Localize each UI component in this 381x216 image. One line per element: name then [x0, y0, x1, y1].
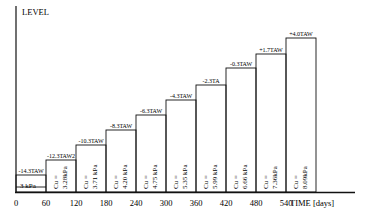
- load-stage: -2.3TACu =5.99 kPa: [196, 78, 226, 192]
- cu-label-line1: Cu =: [142, 175, 150, 189]
- x-tick-label: 540: [280, 198, 293, 208]
- x-tick-label: 120: [70, 198, 83, 208]
- cu-label-line2: 5.99 kPa: [211, 164, 219, 189]
- load-stage: -0.3TAWCu =6.66 kPa: [226, 61, 256, 192]
- load-stage: -6.3TAWCu =4.75 kPa: [136, 108, 166, 192]
- cu-label-line1: Cu =: [232, 175, 240, 189]
- load-stage: -4.3TAWCu =5.35 kPa: [166, 93, 196, 192]
- x-tick-labels: 060120180240300360420480540: [14, 198, 293, 208]
- cu-label-line2: 4.75 kPa: [151, 164, 159, 189]
- cu-label: 3 kPa: [20, 182, 37, 190]
- x-tick-label: 420: [220, 198, 233, 208]
- level-label: -12.3TAW2: [47, 153, 75, 159]
- level-label: +4.0TAW: [289, 31, 313, 37]
- cu-label-line2: 4.20 kPa: [121, 164, 129, 189]
- load-stage: +4.0TAWCu =8.09kPa: [286, 31, 316, 192]
- x-tick-label: 360: [190, 198, 203, 208]
- level-label: -8.3TAW: [110, 123, 133, 129]
- cu-label-line1: Cu =: [262, 175, 270, 189]
- cu-label-line2: 6.66 kPa: [241, 164, 249, 189]
- level-label: -6.3TAW: [140, 108, 163, 114]
- load-stage: -12.3TAW2Cu =3.28kPa: [46, 153, 76, 192]
- x-tick-label: 240: [130, 198, 143, 208]
- load-stage: -8.3TAWCu =4.20 kPa: [106, 123, 136, 192]
- level-label: +1.7TAW: [259, 47, 283, 53]
- load-stage: -10.3TAWCu =3.71 kPa: [76, 138, 106, 192]
- steps-layer: -14.3TAW3 kPa-12.3TAW2Cu =3.28kPa-10.3TA…: [16, 31, 316, 192]
- level-label: -4.3TAW: [170, 93, 193, 99]
- level-label: -0.3TAW: [230, 61, 253, 67]
- x-tick-label: 0: [14, 198, 18, 208]
- load-stage: -14.3TAW3 kPa: [16, 168, 46, 192]
- cu-label-line2: 3.71 kPa: [91, 164, 99, 189]
- level-label: -14.3TAW: [18, 168, 44, 174]
- cu-label-line1: Cu =: [172, 175, 180, 189]
- cu-label-line1: Cu =: [202, 175, 210, 189]
- x-tick-label: 480: [250, 198, 263, 208]
- level-label: -2.3TA: [202, 78, 220, 84]
- cu-label-line2: 7.36kPa: [271, 165, 279, 189]
- cu-label-line1: Cu =: [292, 175, 300, 189]
- x-tick-label: 60: [42, 198, 51, 208]
- cu-label-line2: 5.35 kPa: [181, 164, 189, 189]
- level-label: -10.3TAW: [78, 138, 104, 144]
- cu-label-line2: 3.28kPa: [61, 165, 69, 189]
- staged-loading-chart: -14.3TAW3 kPa-12.3TAW2Cu =3.28kPa-10.3TA…: [0, 0, 381, 216]
- cu-label-line1: Cu =: [112, 175, 120, 189]
- x-axis-title: TIME [days]: [290, 198, 334, 208]
- x-tick-label: 180: [100, 198, 113, 208]
- cu-label-line2: 8.09kPa: [301, 165, 309, 189]
- x-tick-label: 300: [160, 198, 173, 208]
- load-stage: +1.7TAWCu =7.36kPa: [256, 47, 286, 192]
- y-axis-title: LEVEL: [22, 7, 49, 17]
- cu-label-line1: Cu =: [52, 175, 60, 189]
- cu-label-line1: Cu =: [82, 175, 90, 189]
